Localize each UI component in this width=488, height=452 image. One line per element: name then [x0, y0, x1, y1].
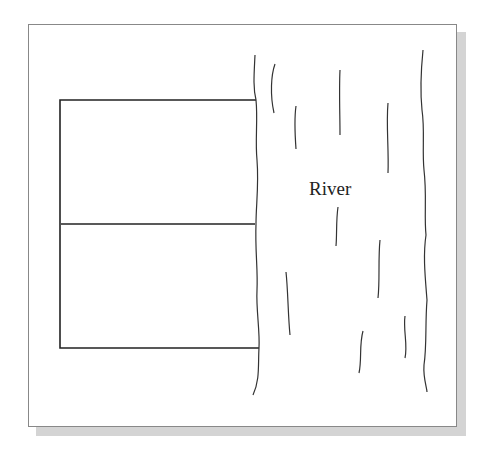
river-right-bank	[421, 50, 427, 392]
river-current-mark	[405, 316, 406, 358]
river-left-bank	[253, 55, 259, 395]
river-current-mark	[271, 64, 275, 113]
land-plot	[60, 100, 259, 348]
river	[253, 50, 427, 395]
river-current-mark	[286, 272, 290, 335]
diagram-canvas: River	[0, 0, 488, 452]
river-label: River	[309, 178, 352, 199]
river-current-mark	[387, 103, 388, 173]
river-current-mark	[359, 331, 363, 373]
river-current-mark	[336, 207, 338, 246]
river-current-mark	[378, 240, 380, 298]
river-current-mark	[295, 106, 296, 149]
